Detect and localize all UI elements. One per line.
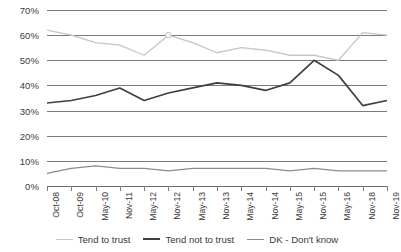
legend-item[interactable]: DK - Don't know (247, 234, 338, 245)
legend-label: Tend not to trust (165, 234, 234, 245)
x-tick (47, 186, 48, 191)
x-tick (217, 186, 218, 191)
x-tick-label: Nov-13 (221, 192, 231, 220)
x-tick-label: Nov-18 (367, 192, 377, 220)
y-tick-label: 20% (20, 130, 39, 141)
x-tick-label: May-15 (294, 192, 304, 221)
x-tick (266, 186, 267, 191)
x-tick-label: May-12 (148, 192, 158, 221)
legend-swatch (247, 239, 264, 240)
plot-area (47, 10, 387, 186)
y-tick-label: 50% (20, 55, 39, 66)
x-tick (120, 186, 121, 191)
y-tick-label: 60% (20, 30, 39, 41)
x-tick (71, 186, 72, 191)
x-tick (193, 186, 194, 191)
legend-swatch (56, 239, 73, 240)
x-tick (168, 186, 169, 191)
x-tick-label: May-14 (245, 192, 255, 221)
x-axis: Oct-08Oct-09May-10Nov-11May-12Nov-12May-… (47, 192, 387, 232)
x-tick (387, 186, 388, 191)
y-tick-label: 0% (25, 181, 39, 192)
x-tick-label: Oct-09 (75, 192, 85, 218)
y-tick-label: 10% (20, 155, 39, 166)
y-axis: 70%60%50%40%30%20%10%0% (0, 0, 45, 196)
x-tick-label: May-13 (197, 192, 207, 221)
legend-label: Tend to trust (78, 234, 131, 245)
series-line (47, 166, 387, 174)
x-tick-label: Nov-19 (391, 192, 401, 220)
x-tick (241, 186, 242, 191)
legend-swatch (143, 238, 160, 240)
x-tick-label: May-16 (342, 192, 352, 221)
series-line (47, 60, 387, 105)
legend-label: DK - Don't know (269, 234, 338, 245)
y-tick-label: 30% (20, 105, 39, 116)
x-tick-label: Nov-14 (270, 192, 280, 220)
legend-item[interactable]: Tend to trust (56, 234, 131, 245)
x-tick-label: Nov-12 (172, 192, 182, 220)
y-tick-label: 70% (20, 5, 39, 16)
y-tick-label: 40% (20, 80, 39, 91)
x-tick (338, 186, 339, 191)
x-tick-label: May-10 (100, 192, 110, 221)
x-tick (290, 186, 291, 191)
series-lines (47, 10, 387, 186)
x-tick (363, 186, 364, 191)
x-tick (314, 186, 315, 191)
data-point-marker (166, 33, 171, 38)
series-line (47, 30, 387, 60)
x-tick (144, 186, 145, 191)
chart-legend: Tend to trustTend not to trustDK - Don't… (0, 231, 394, 247)
legend-item[interactable]: Tend not to trust (143, 234, 234, 245)
x-tick-label: Nov-11 (124, 192, 134, 219)
x-tick (96, 186, 97, 191)
x-tick-label: Nov-15 (318, 192, 328, 220)
x-tick-label: Oct-08 (51, 192, 61, 218)
